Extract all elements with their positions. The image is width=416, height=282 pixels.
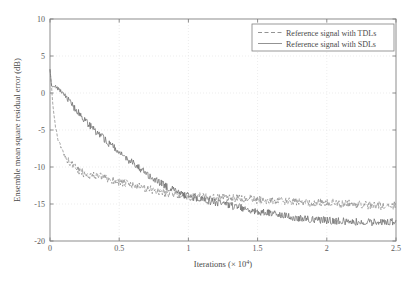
- x-tick-label: 0: [48, 244, 52, 253]
- y-axis-title: Ensemble mean square residual error (dB): [12, 58, 22, 202]
- y-tick-label: -20: [34, 237, 45, 246]
- x-axis-title: Iterations (× 104): [194, 259, 252, 269]
- chart-figure: 00.511.522.51050-5-10-15-20Iterations (×…: [0, 0, 416, 282]
- x-tick-label: 2.5: [391, 244, 401, 253]
- y-tick-label: 0: [41, 89, 45, 98]
- y-tick-label: -5: [38, 126, 45, 135]
- x-tick-label: 1: [186, 244, 190, 253]
- chart-legend: Reference signal with TDLsReference sign…: [252, 24, 394, 51]
- chart-plot-area: 00.511.522.51050-5-10-15-20Iterations (×…: [0, 0, 416, 282]
- legend-label-1: Reference signal with TDLs: [286, 29, 376, 38]
- x-tick-label: 0.5: [114, 244, 124, 253]
- y-tick-label: -15: [34, 200, 45, 209]
- y-tick-label: 10: [37, 15, 45, 24]
- x-tick-label: 1.5: [253, 244, 263, 253]
- y-tick-label: 5: [41, 52, 45, 61]
- x-tick-label: 2: [325, 244, 329, 253]
- legend-label-2: Reference signal with SDLs: [286, 40, 376, 49]
- y-tick-label: -10: [34, 163, 45, 172]
